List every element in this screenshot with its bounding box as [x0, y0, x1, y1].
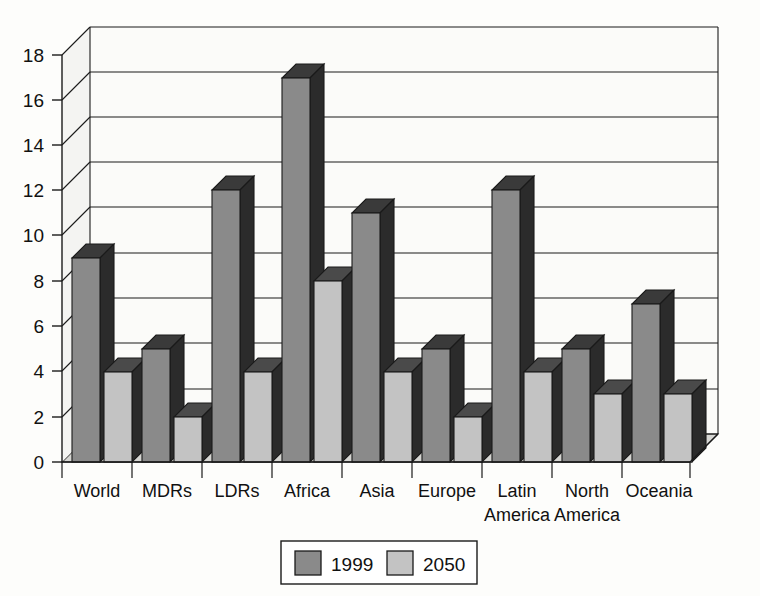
y-tick-label: 12 [23, 180, 44, 201]
y-axis-ticks [52, 55, 62, 462]
legend-swatch-2050 [387, 551, 413, 575]
bar-2050-ldrs [244, 358, 286, 462]
x-axis-category-labels: World MDRs LDRs Africa Asia Europe Latin… [74, 481, 694, 525]
chart-legend: 1999 2050 [281, 541, 477, 584]
y-tick-label: 2 [33, 407, 44, 428]
cat-label-north-america-line1: North [565, 481, 609, 501]
y-tick-label: 4 [33, 361, 44, 382]
bar-2050-north-america [594, 380, 636, 462]
y-tick-label: 8 [33, 271, 44, 292]
y-tick-label: 16 [23, 90, 44, 111]
bar-2050-africa [314, 267, 356, 462]
x-axis-ticks [62, 462, 690, 478]
legend-label-1999: 1999 [331, 554, 373, 575]
y-tick-label: 6 [33, 316, 44, 337]
legend-entry-2050[interactable]: 2050 [387, 551, 465, 575]
y-axis-tick-labels: 18 16 14 12 10 8 6 4 2 0 [23, 45, 45, 473]
legend-swatch-1999 [295, 551, 321, 575]
cat-label-ldrs: LDRs [214, 481, 259, 501]
cat-label-europe: Europe [418, 481, 476, 501]
cat-label-north-america-line2: America [554, 505, 621, 525]
cat-label-oceania: Oceania [625, 481, 693, 501]
bar-2050-mdrs [174, 403, 216, 462]
bar-2050-europe [454, 403, 496, 462]
cat-label-mdrs: MDRs [142, 481, 192, 501]
cat-label-latin-america-line1: Latin [497, 481, 536, 501]
legend-label-2050: 2050 [423, 554, 465, 575]
cat-label-africa: Africa [284, 481, 331, 501]
cat-label-latin-america-line2: America [484, 505, 551, 525]
bar-chart-svg: Urban and Rural Populations of the World… [0, 0, 760, 596]
cat-label-world: World [74, 481, 121, 501]
cat-label-asia: Asia [359, 481, 395, 501]
y-tick-label: 14 [23, 135, 45, 156]
legend-entry-1999[interactable]: 1999 [295, 551, 373, 575]
chart-figure: Urban and Rural Populations of the World… [0, 0, 760, 596]
bar-2050-oceania [664, 380, 706, 462]
bar-2050-world [104, 358, 146, 462]
y-tick-label: 18 [23, 45, 44, 66]
y-tick-label: 0 [33, 452, 44, 473]
bar-2050-latin-america [524, 358, 566, 462]
bar-2050-asia [384, 358, 426, 462]
y-tick-label: 10 [23, 225, 44, 246]
